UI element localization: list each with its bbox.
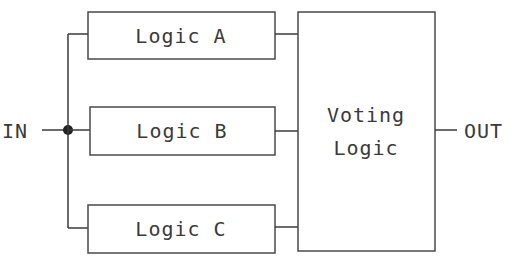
redundancy-diagram: IN Logic A Logic B Logic C Voting Logic … (0, 0, 518, 268)
output-label: OUT (464, 119, 503, 143)
block-logic-a: Logic A (88, 12, 275, 59)
block-logic-c: Logic C (88, 205, 275, 253)
block-label: Logic A (135, 24, 226, 48)
block-label: Logic B (136, 119, 227, 143)
block-logic-b: Logic B (90, 107, 275, 155)
input-label: IN (2, 119, 28, 143)
block-label: Logic C (135, 217, 226, 241)
voter-label-line1: Voting (327, 103, 405, 127)
voter-label-line2: Logic (333, 136, 398, 160)
block-voting-logic: Voting Logic (298, 12, 435, 251)
